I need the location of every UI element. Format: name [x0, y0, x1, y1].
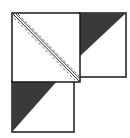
right-half-square-triangle — [78, 13, 126, 77]
bottom-half-square-triangle — [12, 80, 74, 132]
large-square — [12, 13, 80, 82]
quilt-diagram — [0, 0, 130, 138]
